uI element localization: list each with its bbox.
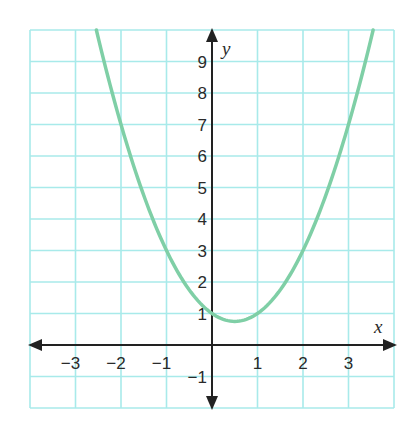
y-tick-label: 3: [198, 242, 207, 261]
parabola-curve: [96, 30, 373, 321]
y-tick-label: 4: [198, 210, 207, 229]
y-tick-label: 6: [198, 147, 207, 166]
x-tick-label: −2: [106, 354, 125, 373]
x-tick-label: 3: [344, 354, 353, 373]
y-axis-label: y: [220, 38, 231, 59]
x-axis-label: x: [373, 316, 383, 337]
y-tick-label: 2: [198, 273, 207, 292]
x-tick-label: −1: [152, 354, 171, 373]
y-tick-label: 5: [198, 179, 207, 198]
x-axis-right-arrow-icon: [383, 339, 397, 351]
y-tick-label: −1: [188, 368, 207, 387]
x-tick-label: 2: [298, 354, 307, 373]
y-tick-label: 8: [198, 84, 207, 103]
x-tick-label: −3: [61, 354, 80, 373]
y-tick-label: 7: [198, 116, 207, 135]
y-tick-label: 9: [198, 53, 207, 72]
parabola-chart: −3−2−1123−1123456789 x y: [0, 0, 407, 422]
x-tick-label: 1: [253, 354, 262, 373]
